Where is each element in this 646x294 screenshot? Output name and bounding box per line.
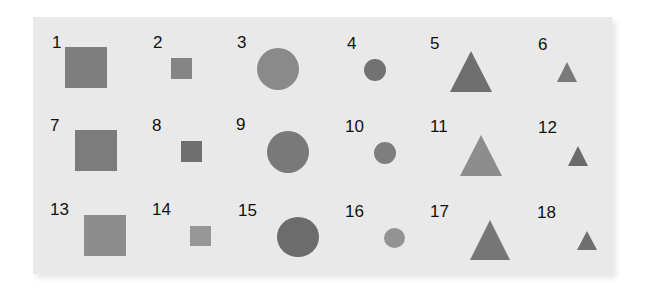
circle-large-15 <box>277 217 319 257</box>
triangle-large-17 <box>470 220 510 260</box>
shape-number-label: 5 <box>430 35 439 52</box>
square-large-13 <box>84 215 126 256</box>
circle-small-4 <box>364 59 386 81</box>
triangle-small-6 <box>557 62 577 82</box>
triangle-large-5 <box>450 51 492 92</box>
circle-small-10 <box>374 142 396 164</box>
square-large-7 <box>75 130 117 171</box>
shape-number-label: 9 <box>236 116 245 133</box>
square-small-2 <box>171 58 192 79</box>
triangle-small-18 <box>577 231 597 250</box>
shape-number-label: 13 <box>50 201 69 218</box>
circle-large-9 <box>267 131 309 173</box>
square-small-8 <box>181 141 202 162</box>
shape-number-label: 2 <box>153 34 162 51</box>
square-large-1 <box>65 47 107 88</box>
shape-number-label: 6 <box>538 36 547 53</box>
shape-number-label: 11 <box>430 118 448 135</box>
shape-number-label: 18 <box>537 204 556 221</box>
shape-number-label: 1 <box>52 34 61 51</box>
shape-number-label: 7 <box>50 117 59 134</box>
shape-number-label: 14 <box>152 201 171 218</box>
triangle-small-12 <box>568 146 588 166</box>
circle-large-3 <box>257 48 299 90</box>
shape-number-label: 12 <box>538 119 557 136</box>
square-small-14 <box>190 226 211 246</box>
shape-number-label: 17 <box>430 203 449 220</box>
shape-number-label: 8 <box>152 117 161 134</box>
triangle-large-11 <box>460 135 502 176</box>
shape-number-label: 3 <box>237 34 246 51</box>
shape-number-label: 16 <box>345 203 364 220</box>
shape-number-label: 10 <box>345 118 364 135</box>
circle-small-16 <box>384 228 405 248</box>
shape-number-label: 15 <box>238 202 257 219</box>
shape-number-label: 4 <box>347 35 356 52</box>
